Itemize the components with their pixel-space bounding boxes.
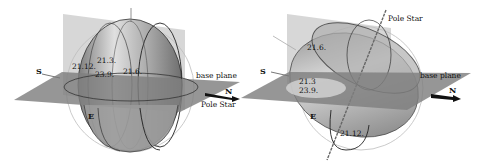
date-label: 21.12.: [340, 130, 364, 138]
date-label: 21.3.: [97, 57, 116, 65]
date-label: 23.9.: [299, 87, 318, 95]
east-label: E: [310, 112, 316, 120]
date-label: 21.6.: [123, 68, 142, 76]
date-label: 21.6.: [307, 44, 326, 52]
north-arrow-icon: [431, 94, 461, 102]
south-label: S: [36, 67, 42, 75]
pole-star-label: Pole Star: [201, 101, 236, 109]
date-label: 21.3: [299, 78, 316, 86]
base-plane-label: base plane: [196, 72, 237, 80]
north-label: N: [449, 86, 456, 94]
date-label: 21.12.: [72, 63, 96, 71]
pole-star-label: Pole Star: [388, 15, 423, 23]
north-label: N: [225, 87, 232, 95]
right-diagram-panel: S N E base plane Pole Star 21.6. 21.3 23…: [241, 0, 482, 165]
left-diagram-panel: S N E base plane Pole Star 21.12. 21.3. …: [0, 0, 241, 165]
right-celestial-sphere-illustration: [241, 0, 482, 165]
left-celestial-sphere-illustration: [0, 0, 241, 165]
east-label: E: [88, 112, 94, 120]
base-plane-label: base plane: [420, 72, 461, 80]
date-label: 23.9.: [95, 71, 114, 79]
south-label: S: [260, 67, 266, 75]
